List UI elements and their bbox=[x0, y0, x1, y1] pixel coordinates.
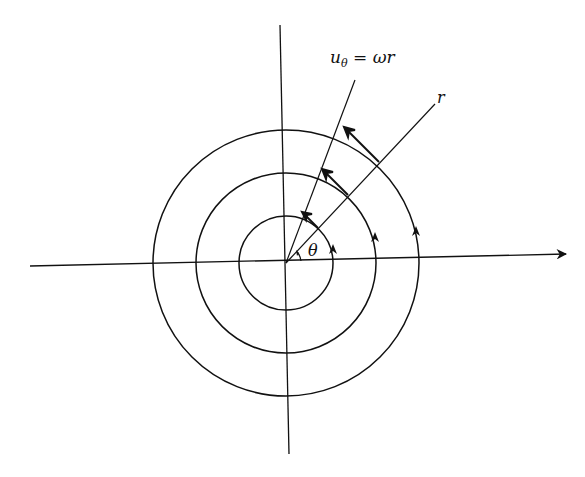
x-axis bbox=[30, 254, 566, 266]
y-axis bbox=[280, 25, 289, 454]
radius-label: r bbox=[437, 88, 446, 107]
velocity-symbol: u bbox=[330, 47, 341, 67]
velocity-label: uθ = ωr bbox=[330, 47, 395, 70]
radius-line bbox=[286, 104, 435, 263]
angle-label: θ bbox=[308, 241, 318, 260]
diagram-canvas: θ r uθ = ωr bbox=[0, 0, 585, 477]
streamline-diagram: θ r uθ = ωr bbox=[0, 0, 585, 477]
velocity-direction-line bbox=[286, 80, 355, 263]
velocity-equation: = ωr bbox=[348, 47, 396, 67]
